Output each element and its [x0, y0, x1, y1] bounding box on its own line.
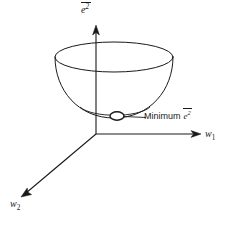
paraboloid-bowl	[55, 42, 173, 118]
ebar-exponent: 2	[85, 3, 89, 11]
minimum-ebar-symbol: e2	[184, 110, 191, 121]
overline-bar	[183, 108, 192, 109]
minimum-annotation-text: Minimum	[144, 111, 181, 121]
minimum-leader-line	[124, 117, 146, 118]
w1-symbol: w1	[205, 128, 215, 139]
bowl-right-wall	[114, 57, 173, 118]
w1-base-letter: w	[205, 128, 212, 139]
minimum-ebar-exponent: 2	[188, 109, 191, 116]
bowl-left-wall	[55, 57, 114, 118]
w2-axis-line	[26, 134, 96, 193]
minimum-annotation-label: Minimume2	[144, 110, 191, 121]
w2-axis-label: w2	[10, 199, 20, 212]
vertical-axis-label: e2	[81, 4, 89, 15]
error-surface-figure: e2 w1 w2 Minimume2	[0, 0, 229, 227]
w2-base-letter: w	[10, 198, 17, 209]
w1-axis-label: w1	[205, 129, 215, 142]
figure-canvas	[0, 0, 229, 227]
minimum-marker-group	[110, 112, 146, 120]
w2-symbol: w2	[10, 198, 20, 209]
bowl-rim-ellipse	[55, 42, 173, 72]
minimum-point-marker	[110, 112, 124, 120]
ebar-symbol: e2	[81, 4, 89, 15]
w2-subscript: 2	[17, 204, 21, 212]
w1-subscript: 1	[212, 134, 216, 142]
overline-bar	[81, 2, 91, 3]
